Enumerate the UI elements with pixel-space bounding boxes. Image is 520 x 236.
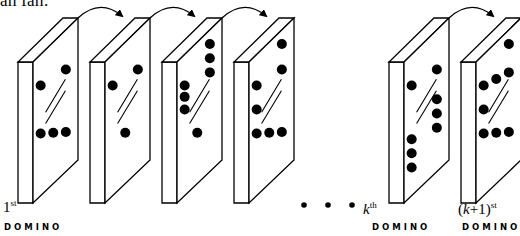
pip-dot <box>133 65 143 75</box>
pip-dot <box>277 39 287 49</box>
domino-edge <box>162 62 177 203</box>
pip-dot <box>407 134 417 144</box>
domino-edge <box>234 62 249 203</box>
domino-edge <box>90 62 105 203</box>
domino-4 <box>234 18 294 203</box>
pip-dot <box>252 81 262 91</box>
pip-dot <box>205 53 215 63</box>
fall-arrow-icon <box>78 7 122 18</box>
domino-1 <box>18 18 78 203</box>
domino-diagram <box>0 0 520 236</box>
pip-dot <box>407 162 417 172</box>
pip-dot <box>407 81 417 91</box>
pip-dot <box>504 39 514 49</box>
pip-dot <box>252 129 262 139</box>
pip-dot <box>277 127 287 137</box>
pip-dot <box>205 39 215 49</box>
domino-edge <box>18 62 33 203</box>
ellipsis-dot <box>349 202 355 208</box>
pip-dot <box>36 81 46 91</box>
pip-dot <box>108 81 118 91</box>
pip-dot <box>479 129 489 139</box>
domino-2 <box>90 18 150 203</box>
pip-dot <box>61 127 71 137</box>
ordinal-label-kth: kth <box>363 200 377 218</box>
pip-dot <box>432 123 442 133</box>
ellipsis-dot <box>301 202 307 208</box>
domino-k-plus-1 <box>461 18 520 203</box>
dominoes-layer <box>18 18 520 203</box>
pip-dot <box>180 81 190 91</box>
ellipsis-layer <box>301 202 355 208</box>
fall-arrow-icon <box>222 7 266 18</box>
pip-dot <box>252 105 262 115</box>
domino-label-first: DOMINO <box>4 222 62 232</box>
arrows-layer <box>78 7 493 18</box>
pip-dot <box>479 81 489 91</box>
fall-arrow-icon <box>449 7 493 18</box>
pip-dot <box>205 67 215 77</box>
pip-dot <box>491 74 501 84</box>
pip-dot <box>36 129 46 139</box>
ellipsis-dot <box>325 202 331 208</box>
pip-dot <box>432 65 442 75</box>
domino-k <box>389 18 449 203</box>
domino-3 <box>162 18 222 203</box>
pip-dot <box>264 128 274 138</box>
ordinal-label-k-plus-1: (k+1)st <box>458 200 497 218</box>
domino-edge <box>461 62 476 203</box>
pip-dot <box>277 65 287 75</box>
domino-edge <box>389 62 404 203</box>
pip-dot <box>180 92 190 102</box>
pip-dot <box>504 67 514 77</box>
pip-dot <box>48 128 58 138</box>
pip-dot <box>192 128 202 138</box>
pip-dot <box>491 128 501 138</box>
domino-label-k-plus-1: DOMINO <box>462 222 520 232</box>
pip-dot <box>432 109 442 119</box>
domino-label-kth: DOMINO <box>372 222 430 232</box>
fall-arrow-icon <box>150 7 194 18</box>
pip-dot <box>61 65 71 75</box>
ordinal-label-first: 1st <box>3 198 17 216</box>
pip-dot <box>180 105 190 115</box>
pip-dot <box>432 94 442 104</box>
pip-dot <box>407 148 417 158</box>
pip-dot <box>504 127 514 137</box>
pip-dot <box>479 105 489 115</box>
pip-dot <box>120 128 130 138</box>
